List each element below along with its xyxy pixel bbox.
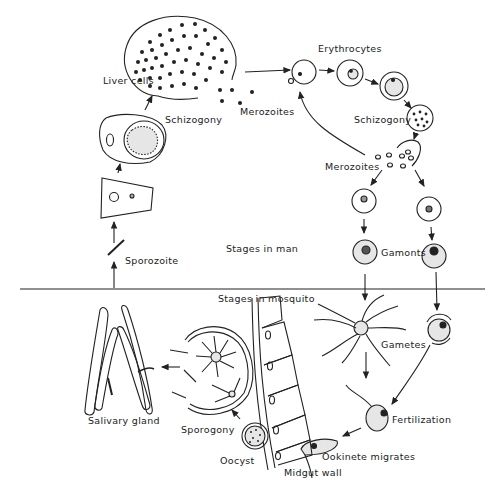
salivary-gland <box>85 306 154 415</box>
label-erythrocytes: Erythrocytes <box>318 43 382 54</box>
ruptured-erythrocyte-merozoites <box>376 140 421 168</box>
young-gamont-right <box>417 197 441 221</box>
label-stages-in-man: Stages in man <box>226 243 298 254</box>
microgametes <box>314 295 406 366</box>
label-ookinete-migrates: Ookinete migrates <box>322 451 415 462</box>
young-gamont-left <box>352 189 376 213</box>
microgamont <box>353 240 377 264</box>
erythrocyte-2 <box>337 60 363 86</box>
label-sporozoite: Sporozoite <box>125 255 178 266</box>
label-oocyst: Oocyst <box>220 455 255 466</box>
oocyst <box>242 423 268 449</box>
macrogamete <box>427 314 451 344</box>
label-midgut-wall: Midgut wall <box>284 467 342 478</box>
sporozoite-glyph <box>108 240 124 255</box>
label-schizogony-blood: Schizogony <box>354 114 411 125</box>
label-sporogony: Sporogony <box>181 424 235 435</box>
liver-cell-merozoites <box>125 16 254 105</box>
sporogony-oocyst <box>170 327 253 415</box>
erythrocyte-1 <box>289 60 317 84</box>
erythrocyte-3 <box>380 72 408 100</box>
label-stages-in-mosquito: Stages in mosquito <box>218 293 315 304</box>
liver-schizont-cell <box>100 114 166 163</box>
label-schizogony-liver: Schizogony <box>165 114 222 125</box>
zygote <box>346 385 388 431</box>
label-salivary-gland: Salivary gland <box>88 415 160 426</box>
label-gametes: Gametes <box>381 339 426 350</box>
label-merozoites-blood: Merozoites <box>325 161 380 172</box>
label-liver-cells: Liver cells <box>103 75 154 86</box>
label-fertilization: Fertilization <box>392 414 451 425</box>
label-merozoites-liver: Merozoites <box>240 106 295 117</box>
liver-cell-infected <box>101 178 153 218</box>
label-gamonts: Gamonts <box>381 247 426 258</box>
